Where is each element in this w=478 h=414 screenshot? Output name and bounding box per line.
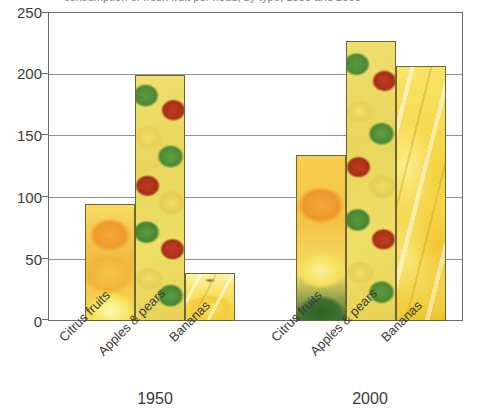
x-label-1950-bananas: Bananas	[166, 298, 213, 345]
group-label-1950: 1950	[100, 390, 210, 408]
x-label-2000-citrus-fruits: Citrus fruits	[268, 288, 325, 345]
x-label-1950-citrus-fruits: Citrus fruits	[56, 288, 113, 345]
category-labels: Citrus fruits Apples & pears Bananas Cit…	[0, 0, 478, 414]
x-label-2000-bananas: Bananas	[378, 298, 425, 345]
bar-chart-figure: consumption of fresh fruit per head, by …	[0, 0, 478, 414]
group-label-2000: 2000	[315, 390, 425, 408]
